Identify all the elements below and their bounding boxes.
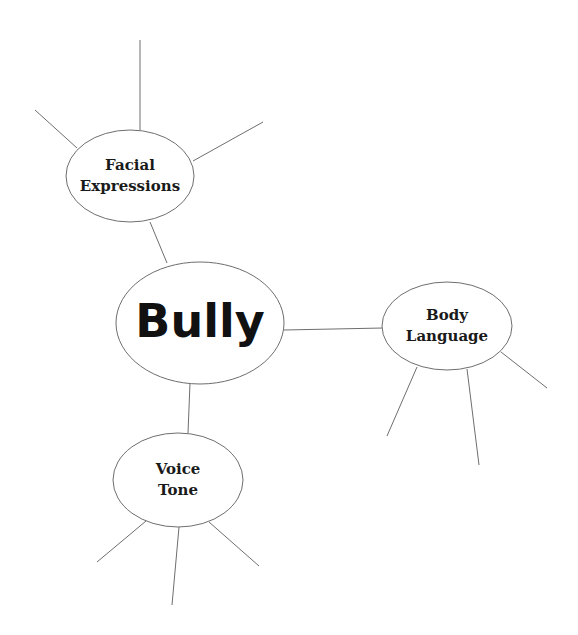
node-label-line: Body <box>406 305 488 326</box>
node-label-line: Tone <box>156 480 201 501</box>
node-label-body-language: Body Language <box>406 305 488 347</box>
spoke-line <box>35 110 77 148</box>
node-label-line: Facial <box>80 155 180 176</box>
concept-map-canvas <box>0 0 578 635</box>
node-label-facial-expressions: Facial Expressions <box>80 155 180 197</box>
spoke-line <box>172 527 179 605</box>
connector-line <box>150 222 167 263</box>
connector-line <box>284 328 383 330</box>
center-node-label: Bully <box>135 294 264 348</box>
spoke-line <box>387 367 417 436</box>
node-label-voice-tone: Voice Tone <box>156 459 201 501</box>
spoke-line <box>193 122 263 161</box>
node-label-line: Expressions <box>80 176 180 197</box>
node-label-line: Voice <box>156 459 201 480</box>
node-label-line: Language <box>406 326 488 347</box>
spoke-line <box>467 369 479 465</box>
concept-map: Bully Facial Expressions Body Language V… <box>0 0 578 635</box>
connector-line <box>188 383 190 433</box>
spoke-line <box>501 352 547 388</box>
spoke-line <box>97 521 146 562</box>
spoke-line <box>209 522 259 566</box>
